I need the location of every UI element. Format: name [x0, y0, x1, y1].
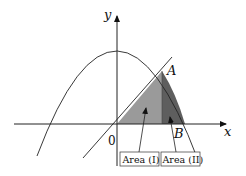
area-2-region [162, 71, 185, 124]
origin-label: 0 [108, 134, 116, 148]
area-1-label: Area (I) [122, 154, 160, 165]
diagram-canvas: y x 0 A B Area (I) Area (II) [0, 0, 246, 176]
y-axis-label: y [103, 7, 112, 22]
area-1-label-box: Area (I) [120, 152, 159, 166]
x-axis-label: x [224, 124, 232, 139]
area-1-region [117, 71, 162, 124]
point-a-label: A [166, 63, 176, 78]
area-2-label: Area (II) [162, 154, 204, 165]
point-b-label: B [173, 126, 184, 141]
area-2-label-box: Area (II) [161, 152, 203, 166]
